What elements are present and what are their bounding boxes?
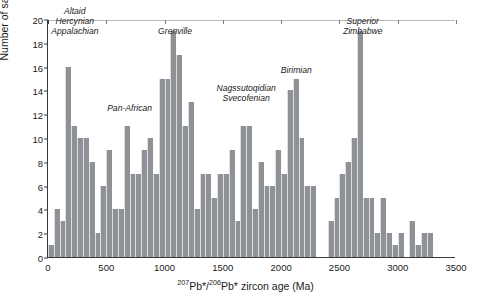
x-axis-title: 207Pb*/206Pb* zircon age (Ma)	[0, 278, 491, 292]
x-tick-label: 3000	[387, 257, 408, 273]
chart-annotation: Grenville	[125, 26, 225, 36]
x-tick-label: 1000	[154, 257, 175, 273]
x-tick-label: 3500	[445, 257, 466, 273]
chart-annotation: Altaid Hercynian Appalachian	[25, 6, 125, 37]
x-tick-label: 1500	[212, 257, 233, 273]
chart-annotation: Nagssutoqidian Svecofenian	[196, 83, 296, 103]
histogram-bar	[427, 233, 433, 257]
histogram-bar	[310, 186, 316, 257]
y-axis-title: Number of samples	[0, 0, 10, 95]
chart-annotation: Birimian	[246, 65, 346, 75]
chart-annotation: Pan-African	[80, 103, 180, 113]
x-axis-isotope-206: 206	[209, 278, 221, 287]
x-tick-label: 2000	[271, 257, 292, 273]
x-tick-label: 500	[98, 257, 114, 273]
plot-area: 02468101214161820 0500100015002000250030…	[47, 20, 455, 258]
zircon-age-histogram-figure: Number of samples 02468101214161820 0500…	[0, 0, 491, 308]
chart-annotation: Superior Zimbabwe	[313, 16, 413, 36]
x-axis-text-2: Pb* zircon age (Ma)	[221, 280, 314, 292]
top-tick-mark	[456, 20, 457, 24]
histogram-bars	[48, 20, 455, 257]
x-tick-label: 0	[45, 257, 50, 273]
x-axis-isotope-207: 207	[177, 278, 189, 287]
histogram-bar	[398, 233, 404, 257]
x-tick-label: 2500	[329, 257, 350, 273]
x-axis-text-1: Pb*/	[189, 280, 209, 292]
